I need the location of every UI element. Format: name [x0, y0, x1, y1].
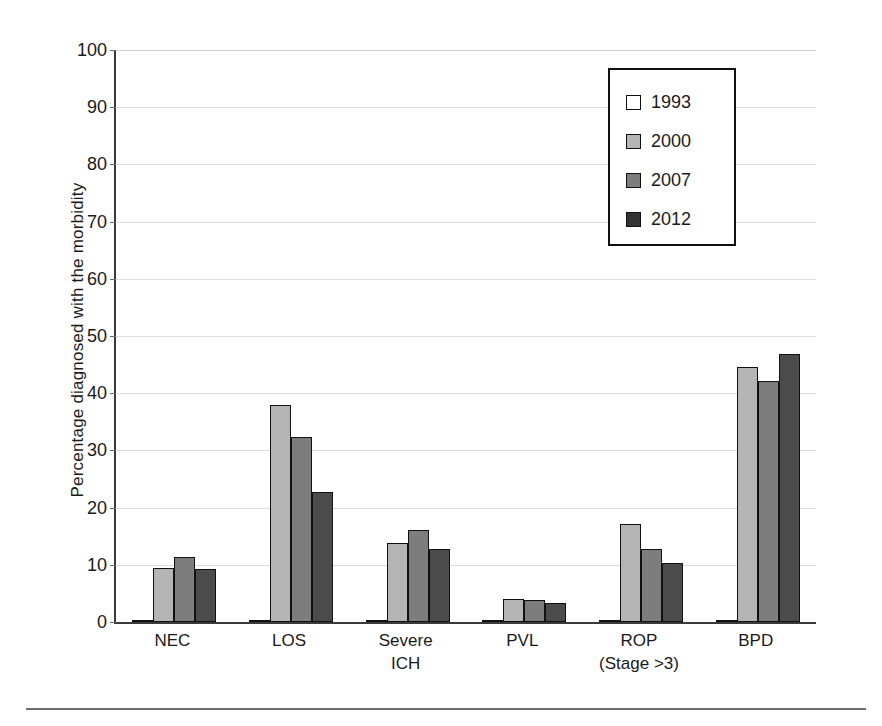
x-axis-label-line1: NEC: [154, 631, 190, 650]
y-axis-tick-label: 50: [37, 327, 107, 345]
x-axis-tick-label: PVL: [464, 630, 581, 676]
x-axis-label-line2: ICH: [347, 653, 464, 676]
legend-item[interactable]: 2007: [626, 161, 734, 200]
legend: 1993 2000 2007 2012: [608, 68, 736, 246]
legend-swatch-icon: [626, 95, 641, 110]
x-axis-label-line2: (Stage >3): [581, 653, 698, 676]
bar[interactable]: [758, 381, 779, 622]
bar-group: [466, 50, 583, 622]
footer-divider: [26, 708, 866, 710]
legend-item-label: 2012: [651, 209, 691, 230]
bar[interactable]: [641, 549, 662, 622]
bar[interactable]: [153, 568, 174, 622]
y-axis-tick-label: 100: [37, 41, 107, 59]
x-axis-labels: NECLOSSevereICHPVLROP(Stage >3)BPD: [114, 630, 814, 676]
bar[interactable]: [662, 563, 683, 622]
y-axis-tick-label: 60: [37, 270, 107, 288]
bar[interactable]: [249, 620, 270, 622]
bar-chart-figure: Percentage diagnosed with the morbidity …: [0, 0, 882, 726]
bar-group: [116, 50, 233, 622]
bar[interactable]: [366, 620, 387, 622]
bar[interactable]: [737, 367, 758, 622]
y-axis-tick-label: 0: [37, 613, 107, 631]
x-axis-label-line1: LOS: [272, 631, 306, 650]
y-axis-tick-label: 40: [37, 384, 107, 402]
bar[interactable]: [270, 405, 291, 622]
bar[interactable]: [524, 600, 545, 622]
bar[interactable]: [387, 543, 408, 622]
bar[interactable]: [312, 492, 333, 622]
bar[interactable]: [599, 620, 620, 622]
x-axis-label-line1: Severe: [379, 631, 433, 650]
bar[interactable]: [429, 549, 450, 622]
legend-item-label: 2007: [651, 170, 691, 191]
x-axis-label-line1: PVL: [506, 631, 538, 650]
bar[interactable]: [132, 620, 153, 622]
bar[interactable]: [174, 557, 195, 622]
bar[interactable]: [716, 620, 737, 622]
legend-item-label: 2000: [651, 131, 691, 152]
x-axis-label-line1: ROP: [621, 631, 658, 650]
bar[interactable]: [545, 603, 566, 622]
legend-item-label: 1993: [651, 92, 691, 113]
legend-swatch-icon: [626, 212, 641, 227]
legend-swatch-icon: [626, 173, 641, 188]
bar-group: [349, 50, 466, 622]
bar[interactable]: [503, 599, 524, 622]
y-axis-tick-label: 10: [37, 556, 107, 574]
bar[interactable]: [195, 569, 216, 622]
legend-item[interactable]: 1993: [626, 83, 734, 122]
y-axis-tick-label: 80: [37, 155, 107, 173]
y-axis-tick-label: 70: [37, 213, 107, 231]
bar[interactable]: [291, 437, 312, 622]
legend-item[interactable]: 2012: [626, 200, 734, 239]
legend-item[interactable]: 2000: [626, 122, 734, 161]
y-axis-tick-label: 20: [37, 499, 107, 517]
bar[interactable]: [482, 620, 503, 622]
y-axis-tick-label: 90: [37, 98, 107, 116]
x-axis-tick-label: NEC: [114, 630, 231, 676]
x-axis-tick-label: BPD: [697, 630, 814, 676]
x-axis-tick-label: LOS: [231, 630, 348, 676]
legend-swatch-icon: [626, 134, 641, 149]
x-axis-tick-label: SevereICH: [347, 630, 464, 676]
x-axis-tick-label: ROP(Stage >3): [581, 630, 698, 676]
bar[interactable]: [408, 530, 429, 622]
bar[interactable]: [620, 524, 641, 622]
y-axis-tick-label: 30: [37, 441, 107, 459]
bar-group: [233, 50, 350, 622]
bar[interactable]: [779, 354, 800, 622]
y-axis-tick-mark: [110, 622, 116, 623]
x-axis-label-line1: BPD: [738, 631, 773, 650]
